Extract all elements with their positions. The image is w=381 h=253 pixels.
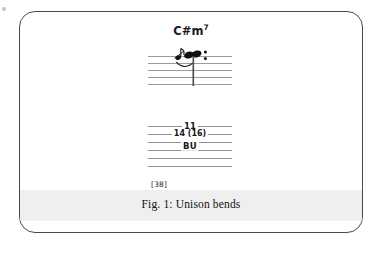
staff-line — [148, 77, 232, 78]
measure-number: [38] — [151, 180, 167, 189]
figure-inner: C#m7 — [20, 12, 362, 232]
figure-card: C#m7 — [19, 11, 363, 233]
staff-line — [148, 70, 232, 71]
tab-line — [148, 158, 232, 159]
chord-symbol-root: C#m — [173, 24, 203, 38]
staff-line — [148, 56, 232, 57]
staff-line — [148, 63, 232, 64]
tab-line — [148, 166, 232, 167]
chord-symbol: C#m7 — [20, 23, 362, 38]
figure-caption: Fig. 1: Unison bends — [20, 198, 362, 210]
tab-technique-bend-up: BU — [181, 142, 199, 151]
chord-symbol-extension: 7 — [204, 23, 209, 32]
tablature-staff: 11 14 (16) BU — [148, 126, 232, 166]
staff-line — [148, 84, 232, 85]
notation-staff — [148, 56, 232, 86]
scan-artifact — [2, 7, 6, 11]
tab-fret-string2: 14 (16) — [172, 130, 208, 138]
